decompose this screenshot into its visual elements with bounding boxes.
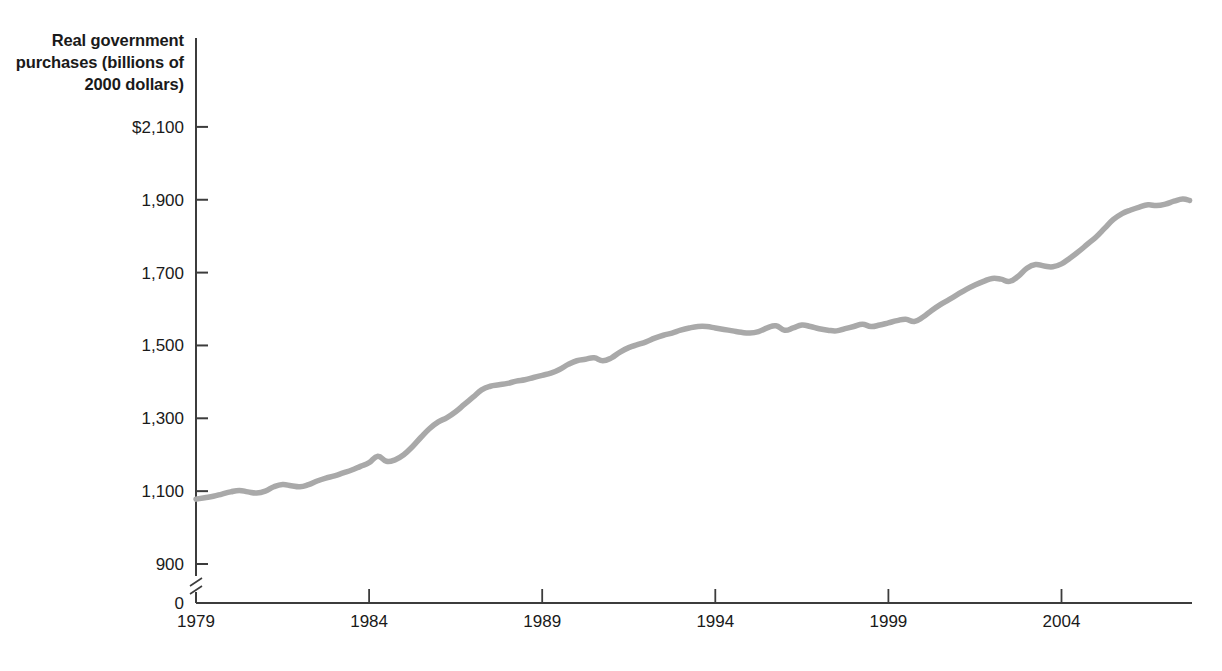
y-tick-label: 1,300 <box>141 409 184 428</box>
y-tick-label: $2,100 <box>132 118 184 137</box>
y-axis-break-icon <box>190 578 202 594</box>
y-tick-label: 1,900 <box>141 191 184 210</box>
chart-figure: Real government purchases (billions of 2… <box>0 0 1222 671</box>
x-tick-label: 2004 <box>1043 612 1081 631</box>
y-tick-label: 1,100 <box>141 482 184 501</box>
x-axis-ticks: 197919841989199419992004 <box>177 589 1080 631</box>
x-tick-label: 1979 <box>177 612 215 631</box>
x-tick-label: 1984 <box>350 612 388 631</box>
x-tick-label: 1989 <box>523 612 561 631</box>
y-tick-label: 1,500 <box>141 336 184 355</box>
line-chart-canvas: $2,1001,9001,7001,5001,3001,1009000 1979… <box>0 0 1222 671</box>
x-tick-label: 1999 <box>869 612 907 631</box>
y-tick-label: 900 <box>156 555 184 574</box>
x-tick-label: 1994 <box>696 612 734 631</box>
y-axis-title: Real government purchases (billions of 2… <box>12 30 184 95</box>
y-tick-label: 0 <box>175 594 184 613</box>
y-tick-label: 1,700 <box>141 264 184 283</box>
series-line-real-government-purchases <box>196 199 1190 499</box>
